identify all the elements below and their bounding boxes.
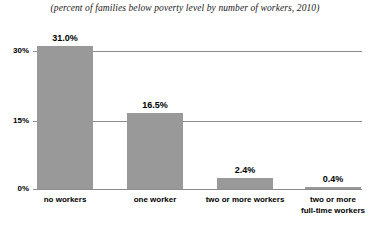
bar-one-worker (127, 113, 183, 189)
y-axis-tick-0 (33, 189, 37, 190)
plot-area: 31.0% 16.5% 2.4% 0.4% (37, 51, 362, 190)
bar-value-no-workers: 31.0% (25, 33, 105, 43)
chart-subtitle: (percent of families below poverty level… (0, 2, 370, 14)
bar-value-two-or-more-workers: 2.4% (205, 165, 285, 175)
bar-value-two-or-more-full-time-workers: 0.4% (293, 174, 370, 184)
bar-chart-figure: (percent of families below poverty level… (0, 0, 370, 233)
bar-no-workers (37, 46, 93, 189)
bar-two-or-more-full-time-workers (305, 187, 361, 189)
x-axis-label-two-or-more-full-time-workers: two or more full-time workers (281, 195, 370, 216)
bar-two-or-more-workers (217, 178, 273, 189)
y-axis-label-0: 0% (3, 185, 29, 193)
x-axis-label-line-1: one worker (134, 195, 177, 204)
y-axis-label-15: 15% (3, 117, 29, 125)
x-axis-label-no-workers: no workers (13, 195, 117, 206)
x-axis-label-line-1: two or more workers (206, 195, 285, 204)
x-axis-label-one-worker: one worker (103, 195, 207, 206)
y-axis-label-30: 30% (3, 47, 29, 55)
bar-value-one-worker: 16.5% (115, 100, 195, 110)
x-axis-label-line-1: two or more (310, 195, 356, 204)
x-axis-label-line-1: no workers (44, 195, 87, 204)
x-axis-baseline (37, 189, 362, 190)
x-axis-label-line-2: full-time workers (281, 206, 370, 217)
